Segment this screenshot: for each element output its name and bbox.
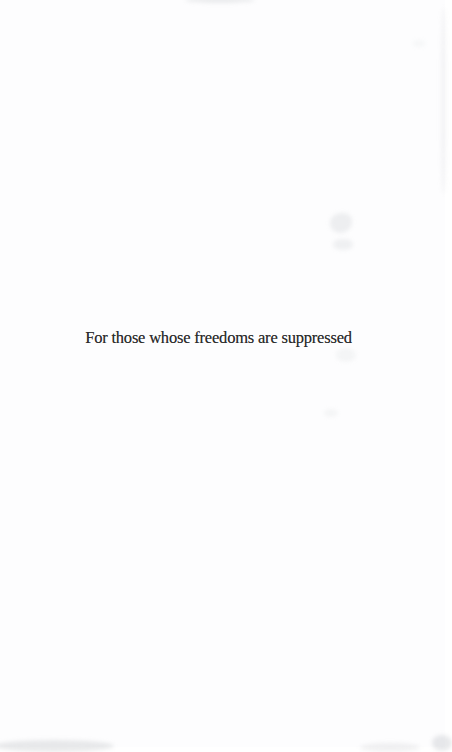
scan-artifact-smudge	[330, 213, 352, 233]
scan-artifact-smudge	[336, 348, 356, 362]
scan-artifact-smudge	[324, 409, 338, 417]
scan-artifact-page-edge	[441, 8, 446, 193]
dedication-text: For those whose freedoms are suppressed	[0, 329, 441, 347]
scan-artifact-page-edge	[432, 735, 452, 751]
scan-artifact-smudge	[333, 239, 353, 250]
scan-artifact-page-edge	[360, 743, 420, 752]
scan-artifact-page-edge	[185, 0, 255, 3]
scan-artifact-smudge	[412, 40, 426, 47]
scan-artifact-page-edge	[0, 740, 114, 752]
